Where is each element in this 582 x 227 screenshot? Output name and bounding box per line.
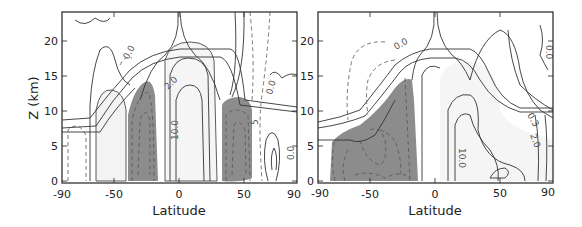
left-contour-label-0b: 0.0 <box>264 79 277 96</box>
right-contour-label-0: 0.0 <box>392 36 410 52</box>
right-xtick-m90: -90 <box>311 187 329 200</box>
right-xtick-50: 50 <box>493 187 507 200</box>
left-xtick-m90: -90 <box>53 188 71 201</box>
right-ytick-15: 15 <box>300 70 314 83</box>
right-contour-label-03: 0.3 <box>525 111 541 128</box>
right-panel: 0.0 10.0 0.3 2.0 0.0 0 5 10 15 20 <box>300 12 555 218</box>
left-contour-label-0c: 0.0 <box>286 145 296 160</box>
left-xtick-0: 0 <box>176 188 183 201</box>
right-ytick-20: 20 <box>300 35 314 48</box>
right-xtick-90: 90 <box>541 186 555 199</box>
left-ytick-20: 20 <box>44 35 58 48</box>
left-xtick-m50: -50 <box>105 188 123 201</box>
right-xtick-m50: -50 <box>361 188 379 201</box>
left-x-axis-title: Latitude <box>152 203 206 218</box>
left-ytick-10: 10 <box>44 105 58 118</box>
right-contour-label-10: 10.0 <box>457 148 467 168</box>
right-x-axis-title: Latitude <box>408 203 462 218</box>
left-contour-label-0: 0.0 <box>121 43 137 61</box>
left-plot-area: 0.0 2.0 10.0 0.0 5 0.0 <box>62 12 297 182</box>
left-contour-label-5: 5 <box>250 119 260 125</box>
right-ytick-10: 10 <box>300 105 314 118</box>
left-xtick-90: 90 <box>287 188 301 201</box>
right-xtick-0: 0 <box>432 188 439 201</box>
right-ytick-5: 5 <box>307 140 314 153</box>
left-y-axis-title: Z (km) <box>26 76 41 119</box>
left-xtick-50: 50 <box>237 188 251 201</box>
left-ytick-5: 5 <box>51 140 58 153</box>
left-ytick-0: 0 <box>51 175 58 188</box>
left-ytick-15: 15 <box>44 70 58 83</box>
left-panel: 0.0 2.0 10.0 0.0 5 0.0 0 5 10 1 <box>26 12 301 218</box>
right-plot-area: 0.0 10.0 0.3 2.0 0.0 <box>318 12 554 181</box>
left-contour-label-10: 10.0 <box>170 120 180 140</box>
